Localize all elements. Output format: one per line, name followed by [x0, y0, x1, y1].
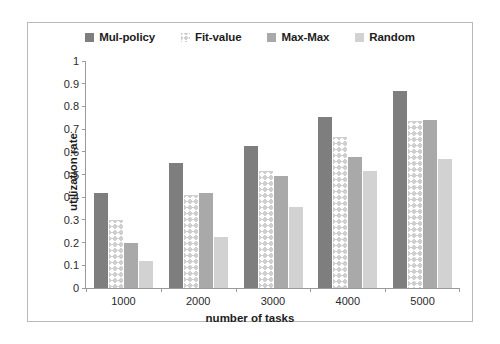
y-axis-tick: 1: [73, 55, 86, 67]
x-axis-tick-mark: [385, 288, 386, 292]
x-axis-tick-label: 2000: [161, 295, 236, 307]
y-axis-tick: 0: [73, 282, 86, 294]
legend-swatch-mul-policy: [85, 33, 94, 42]
bar[interactable]: [124, 243, 138, 288]
legend-swatch-max-max: [267, 33, 276, 42]
bar[interactable]: [348, 157, 362, 288]
bar[interactable]: [274, 176, 288, 288]
bar[interactable]: [393, 91, 407, 288]
chart-figure: Mul-policy Fit-value Max-Max Random util…: [27, 22, 473, 322]
y-axis-tick-label: 0.2: [64, 237, 79, 249]
y-axis-tick: 0.8: [64, 100, 86, 112]
y-axis-tick-label: 0: [73, 282, 79, 294]
bar[interactable]: [109, 220, 123, 288]
y-axis-tick: 0.1: [64, 259, 86, 271]
plot-area: 00.10.20.30.40.50.60.70.80.91: [86, 61, 460, 288]
bar[interactable]: [408, 121, 422, 288]
x-axis-line: [85, 288, 459, 289]
bar-group: [161, 61, 236, 288]
x-axis-tick-label: 1000: [86, 295, 161, 307]
legend-label-max-max: Max-Max: [281, 31, 329, 43]
bar[interactable]: [259, 171, 273, 288]
x-axis-tick-label: 3000: [236, 295, 311, 307]
x-axis-tick-mark: [236, 288, 237, 292]
x-axis-tick-labels: 10002000300040005000: [86, 295, 460, 307]
legend-label-random: Random: [369, 31, 414, 43]
x-axis-tick-mark: [459, 288, 460, 292]
bar[interactable]: [94, 193, 108, 288]
bar[interactable]: [438, 159, 452, 288]
legend-item-max-max[interactable]: Max-Max: [267, 31, 329, 43]
bar-group: [236, 61, 311, 288]
bar-group: [310, 61, 385, 288]
legend-label-mul-policy: Mul-policy: [99, 31, 155, 43]
y-axis-tick-label: 0.9: [64, 78, 79, 90]
bar[interactable]: [139, 261, 153, 288]
y-axis-tick-label: 0.7: [64, 123, 79, 135]
bar[interactable]: [333, 137, 347, 288]
bar[interactable]: [318, 117, 332, 288]
bar[interactable]: [199, 193, 213, 288]
y-axis-tick-label: 0.6: [64, 146, 79, 158]
bar[interactable]: [184, 195, 198, 288]
legend-swatch-random: [355, 33, 364, 42]
y-axis-tick-label: 0.4: [64, 191, 79, 203]
y-axis-tick: 0.6: [64, 146, 86, 158]
bar[interactable]: [423, 120, 437, 288]
bar[interactable]: [214, 237, 228, 288]
legend-swatch-fit-value: [181, 33, 190, 42]
x-axis-tick-mark: [310, 288, 311, 292]
y-axis-tick: 0.9: [64, 78, 86, 90]
y-axis-tick: 0.7: [64, 123, 86, 135]
chart-legend: Mul-policy Fit-value Max-Max Random: [28, 31, 472, 43]
bar-group: [86, 61, 161, 288]
x-axis-tick-mark: [161, 288, 162, 292]
legend-item-fit-value[interactable]: Fit-value: [181, 31, 241, 43]
y-axis-tick-label: 0.1: [64, 259, 79, 271]
y-axis-tick: 0.5: [64, 169, 86, 181]
y-axis-tick-label: 0.3: [64, 214, 79, 226]
bar[interactable]: [289, 207, 303, 288]
x-axis-tick-mark: [86, 288, 87, 292]
y-axis-tick-label: 0.5: [64, 169, 79, 181]
y-axis-tick-label: 1: [73, 55, 79, 67]
bar-groups: [86, 61, 460, 288]
y-axis-tick: 0.2: [64, 237, 86, 249]
bar-group: [385, 61, 460, 288]
x-axis-title: number of tasks: [28, 312, 472, 324]
x-axis-tick-label: 5000: [385, 295, 460, 307]
legend-label-fit-value: Fit-value: [195, 31, 241, 43]
y-axis-tick: 0.3: [64, 214, 86, 226]
bar[interactable]: [169, 163, 183, 288]
legend-item-random[interactable]: Random: [355, 31, 414, 43]
bar[interactable]: [363, 171, 377, 288]
y-axis-tick-label: 0.8: [64, 100, 79, 112]
legend-item-mul-policy[interactable]: Mul-policy: [85, 31, 155, 43]
x-axis-tick-label: 4000: [310, 295, 385, 307]
bar[interactable]: [244, 146, 258, 288]
y-axis-tick: 0.4: [64, 191, 86, 203]
